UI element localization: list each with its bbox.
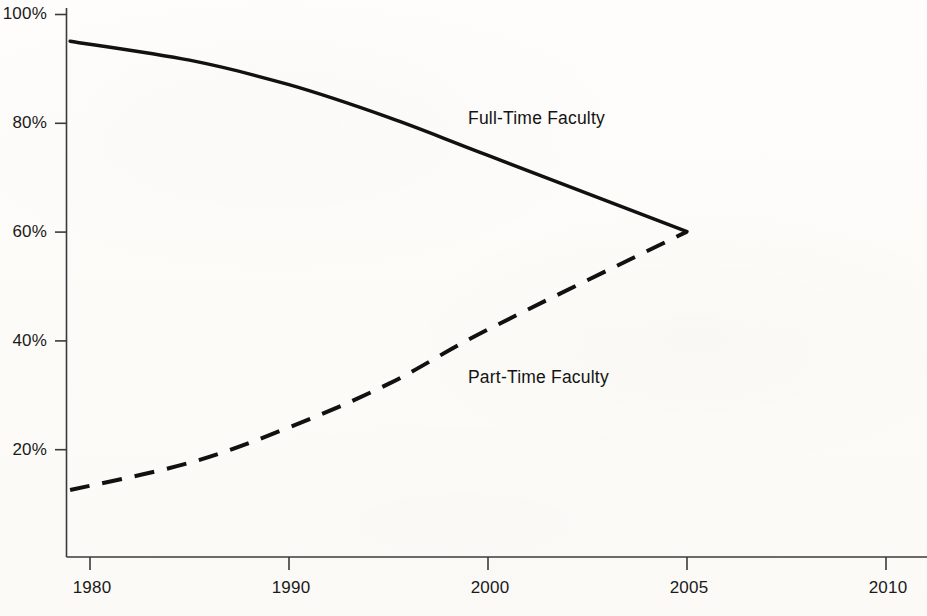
chart-figure: 100% 80% 60% 40% 20% 1980 1990 2000 2005…: [0, 0, 927, 616]
x-axis-tick-label-1980: 1980: [73, 578, 112, 598]
x-axis-tick-label-1990: 1990: [272, 578, 311, 598]
series-annotation-part-time-faculty: Part-Time Faculty: [468, 367, 609, 388]
y-axis-tick-label-60: 60%: [0, 222, 47, 242]
y-axis-tick-label-20: 20%: [0, 440, 47, 460]
y-axis-tick-label-100: 100%: [0, 4, 47, 24]
y-axis-tick-label-40: 40%: [0, 331, 47, 351]
x-axis-tick-label-2005: 2005: [670, 578, 709, 598]
x-axis-tick-label-2010: 2010: [869, 578, 908, 598]
series-line-part-time-faculty: [70, 232, 687, 490]
x-axis-ticks: [90, 557, 886, 570]
chart-plot-area: [0, 0, 927, 616]
series-annotation-full-time-faculty: Full-Time Faculty: [468, 108, 605, 129]
series-line-full-time-faculty: [70, 41, 687, 231]
x-axis-tick-label-2000: 2000: [471, 578, 510, 598]
y-axis-ticks: [55, 15, 67, 450]
y-axis-tick-label-80: 80%: [0, 113, 47, 133]
